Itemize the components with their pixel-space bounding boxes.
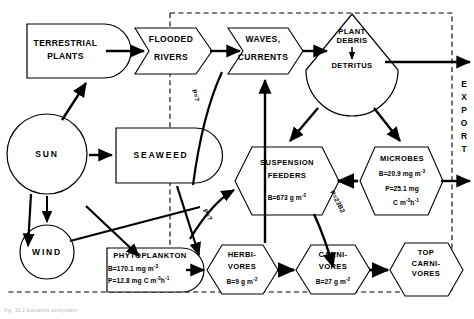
export-label: EXPORT — [457, 78, 471, 156]
flow-debris-to-microbes — [374, 108, 400, 141]
suspension-feeders-shape — [235, 147, 339, 215]
herbivores-shape — [207, 245, 278, 294]
plant-debris-shape — [306, 14, 398, 116]
sun-shape — [7, 114, 87, 194]
flooded-rivers-shape — [135, 28, 212, 74]
figure-caption: Fig. 10.2 Estuarine ecosystem — [4, 307, 77, 313]
flow-wind-to-herbivores — [70, 207, 200, 241]
seaweed-shape — [116, 128, 223, 183]
carnivores-shape — [296, 245, 370, 294]
diagram-canvas: TERRESTRIAL PLANTS FLOODED RIVERS WAVES,… — [0, 0, 474, 319]
flow-debris-to-suspension — [290, 108, 318, 141]
diagram-vector-layer — [0, 0, 474, 319]
microbes-shape — [360, 147, 443, 215]
top-carnivores-shape — [390, 243, 463, 296]
flow-sun-to-terrestrial — [62, 83, 86, 120]
flow-seaweed-cross-down — [177, 186, 199, 255]
flow-seaweed-to-suspension-curve — [190, 190, 234, 239]
